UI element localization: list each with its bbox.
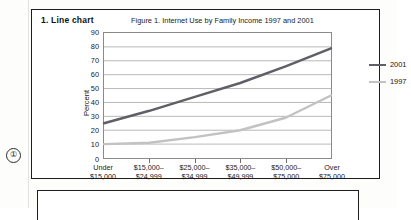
margin-callout-marker: ① bbox=[6, 148, 21, 163]
figure-number-label: 1. Line chart bbox=[41, 15, 94, 25]
series-layer bbox=[104, 33, 331, 158]
x-axis-labels: Under$15,000$15,000–$24,999$25,000–$34,9… bbox=[103, 164, 332, 186]
figure-caption: Figure 1. Internet Use by Family Income … bbox=[131, 16, 314, 25]
y-axis-tick-label: 60 bbox=[83, 70, 99, 79]
legend-label-1997: 1997 bbox=[390, 77, 406, 86]
y-axis-title: Percent bbox=[82, 90, 91, 116]
secondary-figure-container bbox=[37, 190, 359, 220]
y-axis-tick-label: 10 bbox=[83, 140, 99, 149]
series-line-1997 bbox=[104, 96, 331, 145]
x-axis-tick-label: Over$75,000 bbox=[304, 164, 360, 181]
figure-container: 1. Line chart Figure 1. Internet Use by … bbox=[31, 9, 380, 179]
legend-swatch-2001 bbox=[369, 64, 386, 66]
x-axis-tick-label-line2: $75,000 bbox=[304, 173, 360, 182]
data-lines bbox=[104, 48, 331, 144]
chart-legend: 20011997 bbox=[369, 60, 411, 94]
legend-item-2001[interactable]: 2001 bbox=[369, 60, 411, 70]
legend-label-2001: 2001 bbox=[390, 60, 406, 69]
page-left-rule bbox=[28, 0, 29, 208]
legend-item-1997[interactable]: 1997 bbox=[369, 77, 411, 87]
legend-swatch-1997 bbox=[369, 81, 386, 83]
y-axis-tick-label: 20 bbox=[83, 126, 99, 135]
y-axis-tick-label: 90 bbox=[83, 28, 99, 37]
plot-area bbox=[103, 32, 332, 159]
y-axis-tick-label: 70 bbox=[83, 56, 99, 65]
y-axis-tick-label: 80 bbox=[83, 42, 99, 51]
